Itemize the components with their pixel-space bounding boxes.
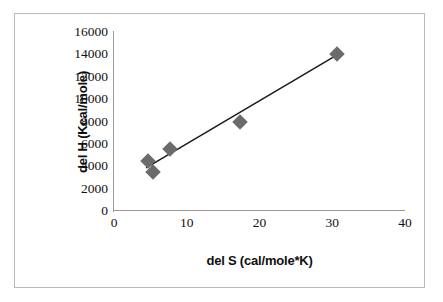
chart-figure: 0200040006000800010000120001400016000 01… (0, 0, 443, 302)
x-tick-label: 10 (167, 216, 207, 230)
x-axis-title: del S (cal/mole*K) (114, 253, 405, 268)
x-tick-label: 40 (385, 216, 425, 230)
x-tick-label: 30 (312, 216, 352, 230)
plot-area (114, 32, 405, 211)
x-axis-tick-labels: 010203040 (0, 216, 443, 240)
x-tick-label: 0 (94, 216, 134, 230)
y-axis-title: del H (Kcal/mole) (70, 32, 92, 211)
x-tick-label: 20 (240, 216, 280, 230)
